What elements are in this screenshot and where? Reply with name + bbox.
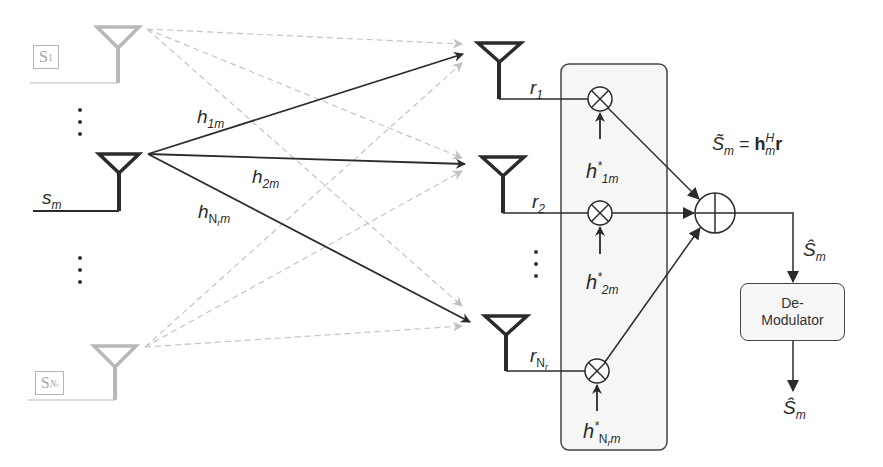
combiner-equation: S̃m = hHmr <box>712 132 782 157</box>
summer <box>695 193 735 233</box>
multiplier-1 <box>588 87 612 111</box>
rx-label-nr: rNr <box>530 346 548 372</box>
estimate-label: Ŝm <box>803 240 826 263</box>
tx-ellipsis-bottom <box>78 256 82 292</box>
rx-ellipsis <box>534 250 538 286</box>
channel-label-1: h1m <box>197 107 224 130</box>
weight-label-2: h*2m <box>586 271 618 296</box>
rx-antenna-2 <box>482 157 524 176</box>
channel-label-2: h2m <box>252 167 279 190</box>
source-box-1: S1 <box>33 45 59 69</box>
rx-label-2: r2 <box>532 192 545 215</box>
mrc-diagram <box>0 0 883 467</box>
output-label: Ŝm <box>783 398 806 421</box>
combiner-box <box>561 64 667 450</box>
tx-signal-label: sm <box>42 188 62 211</box>
rx-antenna-nr <box>485 316 527 335</box>
weight-label-1: h*1m <box>586 160 618 185</box>
tx-ellipsis-top <box>78 108 82 144</box>
channel-label-nr: hNrm <box>198 202 230 228</box>
weight-label-nr: h*Nrm <box>583 420 620 448</box>
rx-label-1: r1 <box>530 78 543 101</box>
multiplier-nr <box>585 359 609 383</box>
multiplier-2 <box>588 201 612 225</box>
demodulator-block: De- Modulator <box>740 283 845 341</box>
source-box-nt: SNt <box>35 371 64 395</box>
rx-antenna-1 <box>478 43 521 62</box>
